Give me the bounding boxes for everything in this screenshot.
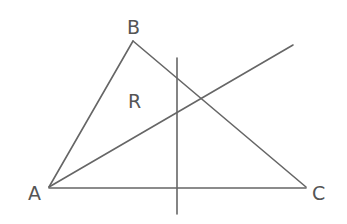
side-ab xyxy=(49,41,133,187)
side-bc xyxy=(133,41,306,187)
vertex-label-c: C xyxy=(312,182,325,204)
ray-from-a xyxy=(49,45,293,187)
vertex-label-a: A xyxy=(28,182,41,204)
vertex-label-b: B xyxy=(127,16,140,38)
triangle-diagram: B A C R xyxy=(0,0,347,224)
region-label-r: R xyxy=(128,90,141,112)
